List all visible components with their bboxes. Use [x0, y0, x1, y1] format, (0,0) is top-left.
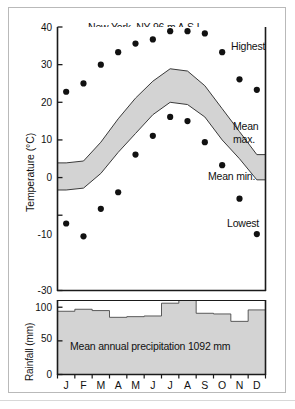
month-label-J-5: J [146, 379, 160, 391]
climate-figure: New York, NY 96 m A.S.L. Temperature (°C… [0, 0, 295, 409]
month-label-A-7: A [181, 379, 195, 391]
rain-tick-label-0: 0 [22, 369, 52, 380]
climate-diagram-page: New York, NY 96 m A.S.L. Temperature (°C… [0, 0, 295, 409]
month-label-A-3: A [111, 379, 125, 391]
rain-tick-label-100: 100 [22, 302, 52, 313]
month-label-M-4: M [129, 379, 143, 391]
month-label-O-9: O [215, 379, 229, 391]
rain-tick-label-50: 50 [22, 333, 52, 344]
month-label-M-2: M [94, 379, 108, 391]
month-label-N-10: N [233, 379, 247, 391]
precipitation-caption: Mean annual precipitation 1092 mm [70, 340, 230, 352]
month-label-D-11: D [250, 379, 264, 391]
month-label-F-1: F [77, 379, 91, 391]
month-label-J-0: J [59, 379, 73, 391]
month-label-J-6: J [163, 379, 177, 391]
month-label-S-8: S [198, 379, 212, 391]
